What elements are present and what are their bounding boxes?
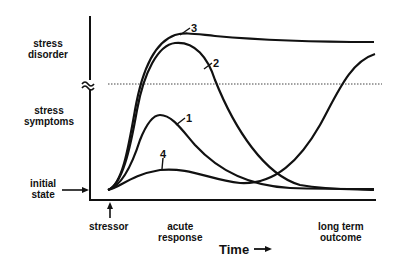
curve-2-label: 2 [213, 57, 219, 69]
time-arrow-icon [254, 246, 272, 252]
curve-3 [108, 33, 374, 190]
chart-canvas: 3 2 1 4 [0, 0, 394, 265]
stressor-arrow-icon [107, 202, 113, 218]
curve-4-label: 4 [160, 148, 167, 160]
curve-4 [108, 54, 375, 190]
axis-break-icon [82, 80, 97, 90]
curve-1 [108, 115, 374, 190]
curve-3-label: 3 [191, 22, 197, 34]
initial-state-arrow-icon [62, 187, 89, 193]
curve-1-label: 1 [186, 112, 192, 124]
